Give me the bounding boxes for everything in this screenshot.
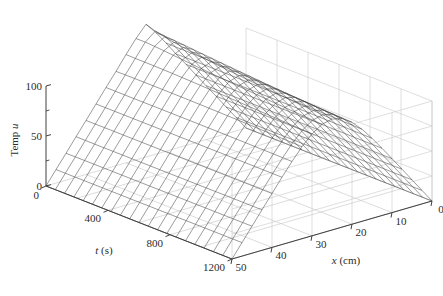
plot-canvas: 0501000400800120001020304050 Temp ut (s)…	[0, 0, 443, 296]
surface-plot-figure: 0501000400800120001020304050 Temp ut (s)…	[0, 0, 443, 296]
surface-mesh	[46, 24, 432, 259]
svg-text:0: 0	[438, 203, 443, 215]
svg-text:x (cm): x (cm)	[331, 254, 361, 267]
axis-lines	[42, 85, 433, 264]
svg-text:1200: 1200	[203, 261, 226, 273]
svg-text:100: 100	[26, 80, 43, 92]
svg-text:Temp u: Temp u	[8, 123, 20, 157]
svg-text:400: 400	[85, 212, 102, 224]
axis-tick-labels: 0501000400800120001020304050	[26, 80, 443, 273]
svg-text:t (s): t (s)	[95, 244, 113, 257]
svg-text:800: 800	[147, 237, 164, 249]
svg-text:50: 50	[236, 261, 248, 273]
svg-text:10: 10	[396, 215, 408, 227]
svg-text:0: 0	[34, 189, 40, 201]
svg-text:50: 50	[31, 130, 43, 142]
svg-text:40: 40	[276, 249, 288, 261]
svg-text:20: 20	[356, 226, 368, 238]
svg-text:30: 30	[316, 238, 328, 250]
